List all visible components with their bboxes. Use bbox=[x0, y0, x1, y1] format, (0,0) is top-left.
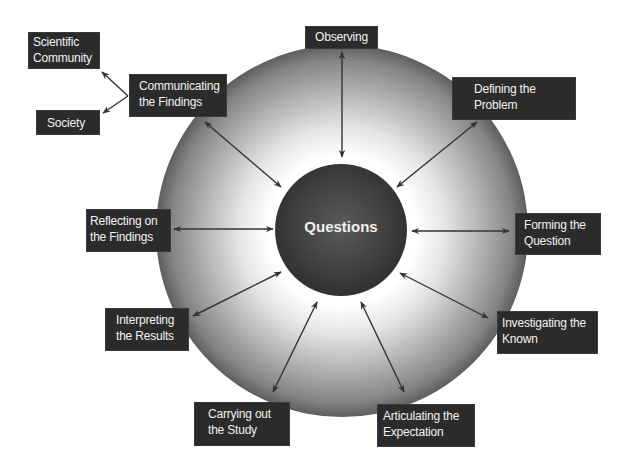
node-forming-the-question: Forming the Question bbox=[515, 213, 601, 255]
node-label: Defining the bbox=[474, 81, 568, 97]
node-investigating-the-known: Investigating the Known bbox=[497, 311, 598, 354]
node-label: Problem bbox=[474, 97, 568, 113]
node-label: Question bbox=[524, 233, 593, 249]
node-observing: Observing bbox=[305, 26, 378, 49]
node-articulating-the-expectation: Articulating the Expectation bbox=[377, 404, 475, 447]
node-label: the Study bbox=[208, 422, 282, 438]
arrow-to-society bbox=[103, 96, 128, 113]
arrow-to-scientific-community bbox=[102, 72, 128, 96]
node-label: Scientific bbox=[33, 34, 92, 50]
node-label: Articulating the bbox=[383, 408, 467, 424]
node-label: Carrying out bbox=[208, 406, 282, 422]
node-scientific-community: Scientific Community bbox=[28, 32, 100, 69]
node-label: Society bbox=[47, 115, 92, 131]
node-label: Community bbox=[33, 50, 92, 66]
node-label: the Results bbox=[116, 328, 181, 344]
node-label: the Findings bbox=[139, 94, 219, 110]
node-label: Interpreting bbox=[116, 312, 181, 328]
node-label: the Findings bbox=[90, 229, 163, 245]
node-interpreting-the-results: Interpreting the Results bbox=[105, 308, 189, 351]
node-carrying-out-the-study: Carrying out the Study bbox=[194, 402, 290, 446]
node-label: Forming the bbox=[524, 217, 593, 233]
node-label: Reflecting on bbox=[90, 213, 163, 229]
node-reflecting-on-the-findings: Reflecting on the Findings bbox=[86, 209, 171, 252]
node-label: Investigating the bbox=[502, 315, 590, 331]
node-society: Society bbox=[36, 110, 100, 135]
node-label: Expectation bbox=[383, 424, 467, 440]
node-communicating-the-findings: Communicating the Findings bbox=[129, 74, 227, 117]
node-label: Observing bbox=[313, 29, 370, 45]
center-label: Questions bbox=[276, 218, 406, 235]
node-label: Communicating bbox=[139, 78, 219, 94]
node-label: Known bbox=[502, 331, 590, 347]
node-defining-the-problem: Defining the Problem bbox=[452, 77, 576, 120]
